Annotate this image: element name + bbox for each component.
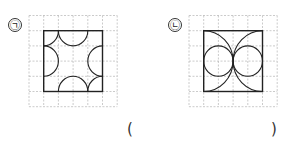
figure-a-label: ㉠ [10,20,20,31]
figure-b-label: ㉡ [170,20,180,31]
figure-a-grid [29,16,117,107]
figure-b: ㉡ [169,16,278,107]
quarter-arc [44,31,59,46]
quarter-arc [88,76,103,91]
figure-a: ㉠ [9,16,118,107]
answer-blank[interactable] [135,118,267,138]
answer-open-paren: ( [127,120,133,138]
answer-close-paren: ) [271,120,277,138]
